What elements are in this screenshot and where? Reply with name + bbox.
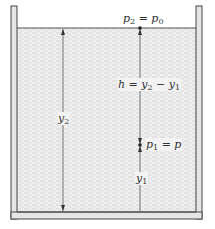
tank-graphic (0, 0, 215, 229)
tank-right-wall (196, 6, 202, 219)
tank-bottom (11, 212, 202, 219)
point-height-label: y1 (135, 173, 148, 188)
point-1-marker (138, 143, 142, 147)
surface-pressure-label: p2 = p0 (123, 13, 164, 28)
depth-label: h = y2 − y1 (117, 79, 181, 94)
point-pressure-label: p1 = p (145, 139, 182, 154)
total-height-label: y2 (57, 113, 70, 128)
liquid-body (17, 28, 196, 212)
hydrostatic-tank-diagram: p2 = p0 h = y2 − y1 y2 p1 = p y1 (0, 0, 215, 229)
tank-left-wall (11, 6, 17, 219)
